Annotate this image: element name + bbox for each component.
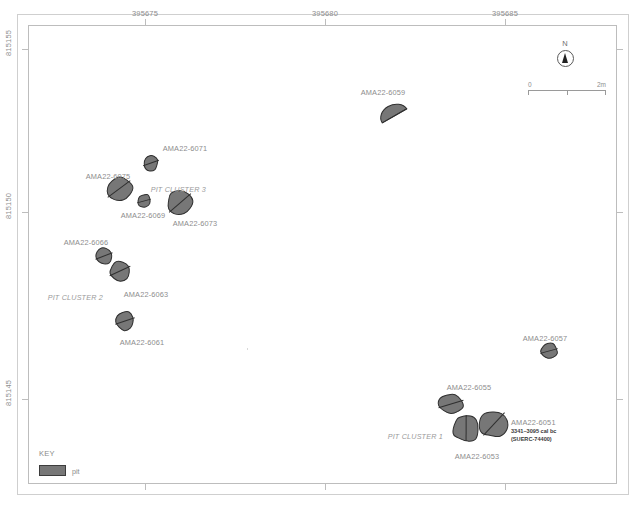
x-axis-label-1: 395680 bbox=[312, 9, 338, 18]
scale-end-label: 2m bbox=[597, 82, 606, 89]
x-tick-bottom-2 bbox=[505, 484, 506, 490]
pit-label-ama22-6069: AMA22-6069 bbox=[121, 211, 166, 220]
pit-label-ama22-6053: AMA22-6053 bbox=[455, 452, 500, 461]
site-plan-page: 395675395680395685815155815150815145 AMA… bbox=[0, 0, 635, 506]
north-triangle-icon bbox=[562, 53, 568, 63]
pit-label-ama22-6063: AMA22-6063 bbox=[124, 290, 169, 299]
pit-label-ama22-6066: AMA22-6066 bbox=[64, 238, 109, 247]
cluster-label-pit-cluster-1: PIT CLUSTER 1 bbox=[388, 432, 443, 441]
cluster-label-pit-cluster-3: PIT CLUSTER 3 bbox=[151, 185, 206, 194]
pit-outline bbox=[377, 100, 408, 123]
pit-label-ama22-6059: AMA22-6059 bbox=[361, 88, 406, 97]
y-tick-right-2 bbox=[617, 399, 623, 400]
pit-label-ama22-6071: AMA22-6071 bbox=[163, 144, 208, 153]
pit-labcode-ama22-6051: (SUERC-74400) bbox=[511, 435, 552, 443]
pit-label-ama22-6057: AMA22-6057 bbox=[523, 334, 568, 343]
y-axis-label-1: 815150 bbox=[4, 193, 13, 219]
key-label-pit: pit bbox=[72, 467, 80, 476]
x-tick-top-0 bbox=[145, 19, 146, 25]
y-tick-left-0 bbox=[22, 49, 28, 50]
x-tick-bottom-0 bbox=[145, 484, 146, 490]
key-title: KEY bbox=[39, 449, 55, 458]
pit-label-ama22-6051: AMA22-6051 bbox=[511, 418, 556, 427]
x-tick-bottom-1 bbox=[325, 484, 326, 490]
pit-ama22-6071[interactable] bbox=[140, 151, 162, 175]
north-arrow: N bbox=[545, 40, 585, 67]
pit-label-ama22-6055: AMA22-6055 bbox=[447, 383, 492, 392]
y-axis-label-0: 815155 bbox=[4, 30, 13, 56]
pit-label-ama22-6073: AMA22-6073 bbox=[173, 219, 218, 228]
pit-label-ama22-6061: AMA22-6061 bbox=[120, 338, 165, 347]
y-axis-label-2: 815145 bbox=[4, 380, 13, 406]
cluster-label-pit-cluster-2: PIT CLUSTER 2 bbox=[48, 293, 103, 302]
x-tick-top-1 bbox=[325, 19, 326, 25]
pit-ama22-6051[interactable] bbox=[476, 407, 512, 441]
pit-label-ama22-6075: AMA22-6075 bbox=[86, 172, 131, 181]
map-speck bbox=[247, 348, 248, 350]
y-tick-left-1 bbox=[22, 212, 28, 213]
x-axis-label-2: 395685 bbox=[492, 9, 518, 18]
north-arrow-icon bbox=[557, 50, 574, 67]
pit-ama22-6059[interactable] bbox=[375, 97, 411, 127]
pit-date-ama22-6051: 3341–3095 cal bc bbox=[511, 427, 556, 435]
scale-tick-mid bbox=[567, 90, 568, 95]
scale-tick-end bbox=[605, 90, 606, 95]
pit-ama22-6063[interactable] bbox=[106, 257, 134, 285]
x-tick-top-2 bbox=[505, 19, 506, 25]
scale-tick-start bbox=[528, 90, 529, 95]
pit-ama22-6061[interactable] bbox=[112, 308, 138, 334]
key-swatch-pit bbox=[39, 465, 66, 476]
scale-start-label: 0 bbox=[528, 82, 532, 89]
y-tick-left-2 bbox=[22, 399, 28, 400]
north-letter: N bbox=[545, 40, 585, 48]
y-tick-right-0 bbox=[617, 49, 623, 50]
y-tick-right-1 bbox=[617, 212, 623, 213]
x-axis-label-0: 395675 bbox=[132, 9, 158, 18]
